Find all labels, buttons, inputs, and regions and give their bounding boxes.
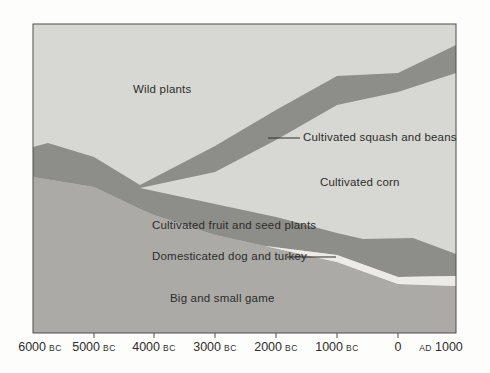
axis-tick-label: 4000BC (132, 340, 176, 354)
era-suffix: BC (163, 343, 176, 353)
axis-tick-label: 6000BC (18, 340, 62, 354)
year-number: 5000 (72, 340, 100, 354)
year-number: 4000 (132, 340, 160, 354)
era-suffix: BC (285, 343, 298, 353)
axis-tick-label: AD1000 (419, 340, 463, 354)
era-suffix: BC (49, 343, 62, 353)
year-number: 1000 (435, 340, 463, 354)
x-axis-labels: 6000BC5000BC4000BC3000BC2000BC1000BC0AD1… (0, 0, 490, 373)
diet-composition-chart: Wild plants Cultivated squash and beans … (0, 0, 490, 373)
axis-tick-label: 3000BC (193, 340, 237, 354)
year-number: 3000 (193, 340, 221, 354)
era-suffix: BC (224, 343, 237, 353)
era-suffix: BC (346, 343, 359, 353)
axis-tick-label: 5000BC (72, 340, 116, 354)
axis-tick-label: 0 (395, 340, 402, 354)
year-number: 1000 (315, 340, 343, 354)
axis-tick-label: 2000BC (254, 340, 298, 354)
year-number: 2000 (254, 340, 282, 354)
era-prefix: AD (419, 343, 432, 353)
year-number: 0 (395, 340, 402, 354)
axis-tick-label: 1000BC (315, 340, 359, 354)
era-suffix: BC (103, 343, 116, 353)
year-number: 6000 (18, 340, 46, 354)
